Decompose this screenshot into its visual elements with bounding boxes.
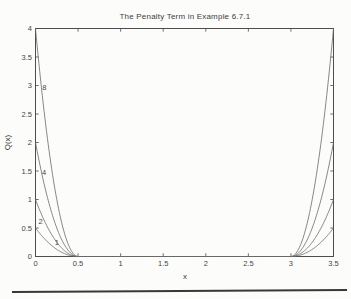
x-tick-label: 0 xyxy=(33,259,37,268)
y-axis-label: Q(x) xyxy=(3,128,14,158)
curve-label-4: 4 xyxy=(42,168,46,177)
y-tick-label: 0 xyxy=(28,252,32,261)
y-tick-label: 2.5 xyxy=(22,110,32,119)
plot-box xyxy=(36,29,334,257)
plot-canvas: 00.511.522.533.500.511.522.533.548421 xyxy=(0,0,351,299)
penalty-curve-mu-4 xyxy=(36,143,334,257)
scanned-figure-page: 00.511.522.533.500.511.522.533.548421 Th… xyxy=(0,0,351,299)
penalty-curve-mu-8 xyxy=(36,29,334,257)
y-tick-label: 3.5 xyxy=(22,53,32,62)
curve-label-1: 1 xyxy=(55,238,59,247)
y-tick-label: 4 xyxy=(28,24,32,33)
x-tick-label: 0.5 xyxy=(73,259,83,268)
penalty-curve-mu-2 xyxy=(36,200,334,257)
x-tick-label: 1.5 xyxy=(158,259,168,268)
y-tick-label: 0.5 xyxy=(22,224,32,233)
x-tick-label: 3.5 xyxy=(328,259,338,268)
y-tick-label: 2 xyxy=(28,138,32,147)
x-tick-label: 3 xyxy=(289,259,293,268)
y-tick-label: 1.5 xyxy=(22,167,32,176)
y-tick-label: 1 xyxy=(28,195,32,204)
curve-label-2: 2 xyxy=(39,217,43,226)
penalty-curve-mu-1 xyxy=(36,228,334,257)
x-tick-label: 2.5 xyxy=(243,259,253,268)
curve-label-8: 8 xyxy=(42,83,46,92)
x-tick-label: 2 xyxy=(204,259,208,268)
chart-title: The Penalty Term in Example 6.7.1 xyxy=(36,12,334,21)
y-tick-label: 3 xyxy=(28,81,32,90)
x-axis-label: x xyxy=(36,272,334,281)
x-tick-label: 1 xyxy=(119,259,123,268)
